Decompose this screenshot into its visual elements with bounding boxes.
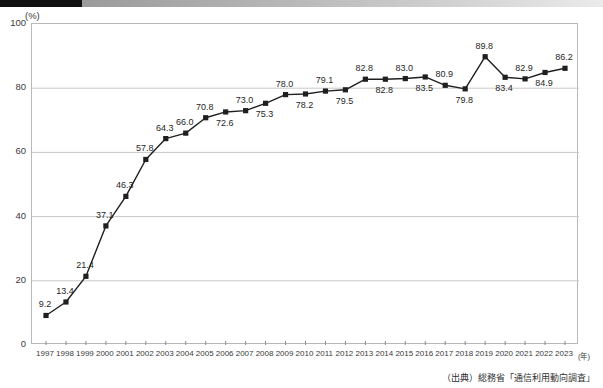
y-axis-tick-label: 100 (0, 17, 26, 28)
data-value-label: 89.8 (467, 41, 501, 51)
data-value-label: 83.5 (407, 83, 441, 93)
data-value-label: 9.2 (28, 299, 62, 309)
data-value-label: 75.3 (248, 109, 282, 119)
data-point-marker[interactable] (103, 223, 108, 228)
y-axis-tick-label: 40 (0, 210, 26, 221)
data-point-marker[interactable] (83, 274, 88, 279)
data-point-marker[interactable] (542, 70, 547, 75)
x-axis-tick-label: 2023 (549, 349, 579, 358)
data-point-marker[interactable] (223, 109, 228, 114)
data-point-marker[interactable] (503, 75, 508, 80)
data-point-marker[interactable] (383, 77, 388, 82)
data-value-label: 79.5 (327, 96, 361, 106)
data-point-marker[interactable] (323, 88, 328, 93)
data-point-marker[interactable] (443, 83, 448, 88)
y-axis-tick-label: 0 (0, 338, 26, 349)
data-point-marker[interactable] (123, 194, 128, 199)
data-point-marker[interactable] (343, 87, 348, 92)
y-axis-tick-label: 80 (0, 81, 26, 92)
data-point-marker[interactable] (183, 131, 188, 136)
data-value-label: 72.6 (208, 118, 242, 128)
data-value-label: 83.4 (487, 83, 521, 93)
data-value-label: 80.9 (427, 69, 461, 79)
data-value-label: 78.0 (268, 79, 302, 89)
data-value-label: 78.2 (288, 100, 322, 110)
data-point-marker[interactable] (403, 76, 408, 81)
data-value-label: 82.8 (347, 63, 381, 73)
y-axis-tick-label: 60 (0, 145, 26, 156)
data-value-label: 66.0 (168, 117, 202, 127)
data-value-label: 70.8 (188, 102, 222, 112)
data-value-label: 79.8 (447, 95, 481, 105)
x-axis-unit-label: (年) (578, 350, 590, 361)
chart-page: (%) 020406080100 19971998199920002001200… (0, 0, 603, 388)
data-point-marker[interactable] (463, 86, 468, 91)
y-axis-unit-label: (%) (25, 10, 40, 21)
data-point-marker[interactable] (562, 66, 567, 71)
data-value-label: 46.3 (108, 180, 142, 190)
data-value-label: 73.0 (228, 95, 262, 105)
data-value-label: 82.8 (367, 85, 401, 95)
data-point-marker[interactable] (263, 101, 268, 106)
data-value-label: 86.2 (547, 52, 581, 62)
data-value-label: 82.9 (507, 63, 541, 73)
data-value-label: 84.9 (527, 78, 561, 88)
data-point-marker[interactable] (63, 299, 68, 304)
data-value-label: 21.4 (68, 260, 102, 270)
data-point-marker[interactable] (483, 54, 488, 59)
data-value-label: 57.8 (128, 143, 162, 153)
data-point-marker[interactable] (283, 92, 288, 97)
data-point-marker[interactable] (363, 77, 368, 82)
data-point-marker[interactable] (163, 136, 168, 141)
data-point-marker[interactable] (303, 91, 308, 96)
data-value-label: 37.1 (88, 210, 122, 220)
data-value-label: 13.4 (48, 286, 82, 296)
data-value-label: 79.1 (307, 75, 341, 85)
y-axis-tick-label: 20 (0, 274, 26, 285)
header-accent-bar-gradient (82, 0, 603, 7)
data-point-marker[interactable] (143, 157, 148, 162)
data-value-label: 83.0 (387, 63, 421, 73)
data-point-marker[interactable] (43, 313, 48, 318)
source-note: （出典）総務省「通信利用動向調査」 (442, 371, 595, 384)
header-accent-bar-dark (0, 0, 82, 7)
